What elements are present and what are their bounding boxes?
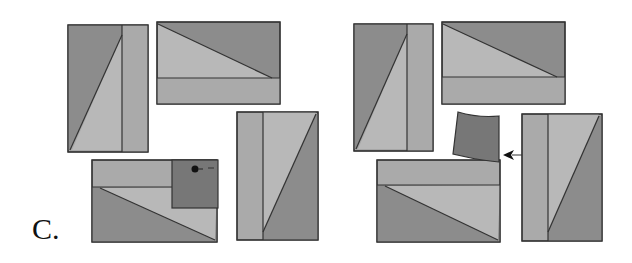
- left-group: [68, 22, 318, 242]
- panel-tall-top-left: [68, 25, 148, 152]
- panel-wide-top-right: [442, 22, 565, 104]
- figure-label: C.: [32, 212, 60, 246]
- panel-tall-top-left-right: [354, 24, 433, 151]
- right-group: [354, 22, 602, 242]
- panel-wide-bottom-right: [377, 160, 500, 242]
- lifted-flap: [453, 112, 499, 162]
- arrow-icon: [503, 150, 522, 160]
- figure-diagram: [0, 0, 632, 263]
- panel-tall-right-right: [522, 114, 602, 241]
- panel-tall-right: [237, 112, 318, 240]
- dot-marker: [192, 166, 199, 173]
- panel-wide-top: [157, 22, 280, 104]
- panel-wide-bottom: [92, 160, 218, 242]
